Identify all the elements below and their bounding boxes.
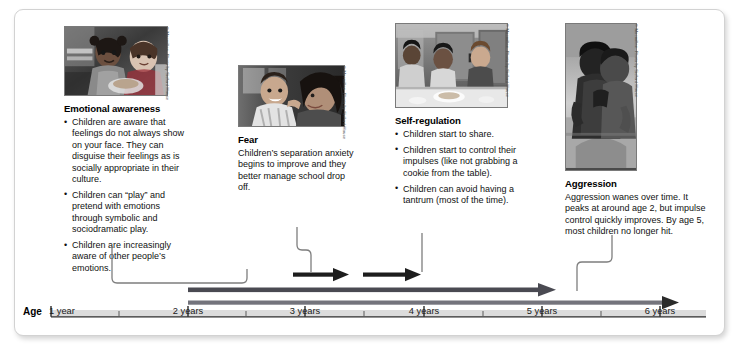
axis-major-ticks bbox=[51, 306, 660, 317]
block-aggression: © Macmillan. Photo by Sidford House Aggr… bbox=[565, 23, 711, 238]
photo-self-regulation bbox=[395, 23, 508, 108]
block-paragraph-fear: Children’s separation anxiety begins to … bbox=[238, 148, 358, 194]
axis-band bbox=[51, 310, 706, 317]
photo-credit-emotional-awareness: © Macmillan. Photo by Sidford House bbox=[164, 27, 170, 100]
photo-credit-fear: © Macmillan. Photo by Sidford House bbox=[341, 66, 347, 139]
figure-panel: © Macmillan. Photo by Sidford House Emot… bbox=[14, 9, 725, 336]
block-list-emotional-awareness: Children are aware that feelings do not … bbox=[64, 117, 192, 274]
axis-tick-label: 3 years bbox=[290, 306, 321, 316]
bar-short-b bbox=[363, 268, 421, 281]
bar-long-dark bbox=[188, 283, 556, 297]
list-item: Children can avoid having a tantrum (mos… bbox=[395, 184, 520, 207]
block-emotional-awareness: © Macmillan. Photo by Sidford House Emot… bbox=[64, 26, 192, 279]
block-title-emotional-awareness: Emotional awareness bbox=[64, 103, 192, 114]
block-title-fear: Fear bbox=[238, 134, 358, 145]
photo-wrap-self-regulation: © Macmillan. Photo by Sidford House bbox=[395, 23, 520, 108]
axis-tick-label: 4 years bbox=[409, 306, 440, 316]
block-self-regulation: © Macmillan. Photo by Sidford House Self… bbox=[395, 23, 520, 211]
list-item: Children start to control their impulses… bbox=[395, 145, 520, 179]
connector-fear bbox=[297, 227, 311, 272]
list-item: Children are increasingly aware of other… bbox=[64, 240, 192, 274]
axis-label-age: Age bbox=[23, 306, 42, 317]
axis-tick-label: 6 years bbox=[645, 306, 676, 316]
photo-emotional-awareness bbox=[64, 26, 168, 96]
block-title-self-regulation: Self-regulation bbox=[395, 115, 520, 126]
photo-credit-self-regulation: © Macmillan. Photo by Sidford House bbox=[504, 24, 510, 97]
connector-aggression bbox=[577, 235, 612, 291]
bar-short-a bbox=[293, 268, 349, 281]
axis-tick-label: 2 years bbox=[173, 306, 204, 316]
list-item: Children are aware that feelings do not … bbox=[64, 117, 192, 185]
axis-tick-label: 5 years bbox=[527, 306, 558, 316]
photo-credit-aggression: © Macmillan. Photo by Sidford House bbox=[633, 24, 639, 97]
block-paragraph-aggression: Aggression wanes over time. It peaks at … bbox=[565, 192, 711, 238]
photo-wrap-emotional-awareness: © Macmillan. Photo by Sidford House bbox=[64, 26, 192, 96]
photo-aggression bbox=[565, 23, 637, 171]
block-list-self-regulation: Children start to share. Children start … bbox=[395, 129, 520, 206]
photo-wrap-aggression: © Macmillan. Photo by Sidford House bbox=[565, 23, 711, 171]
list-item: Children can “play” and pretend with emo… bbox=[64, 190, 192, 236]
block-title-aggression: Aggression bbox=[565, 178, 711, 189]
photo-fear bbox=[238, 65, 345, 127]
block-fear: © Macmillan. Photo by Sidford House Fear… bbox=[238, 65, 358, 194]
photo-wrap-fear: © Macmillan. Photo by Sidford House bbox=[238, 65, 358, 127]
axis-tick-label: 1 year bbox=[49, 306, 75, 316]
list-item: Children start to share. bbox=[395, 129, 520, 140]
